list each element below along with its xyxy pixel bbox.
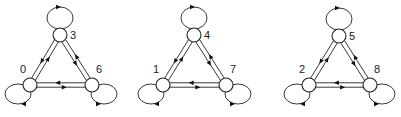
edge-1-to-4 [169,42,193,80]
edge-8-to-5 [345,41,369,78]
arrow-7-to-1-icon [189,81,194,85]
self-loop-5 [326,8,352,30]
state-label-7: 7 [230,63,236,75]
arrow-0-to-6-icon [62,85,67,89]
self-loop-arrow-5-icon [335,6,340,10]
self-loop-3 [47,7,73,29]
edge-4-to-7 [196,42,220,80]
state-node-0 [23,78,37,92]
arrow-8-to-5-icon [354,55,359,60]
state-label-8: 8 [374,63,380,75]
state-label-0: 0 [20,63,26,75]
graph-component-B: 417 [138,5,251,106]
arrow-0-to-3-icon [45,57,49,62]
graph-component-A: 306 [5,5,117,106]
arrow-2-to-5-icon [324,57,328,62]
edge-2-to-5 [315,43,338,80]
self-loop-arrow-2-icon [300,102,305,106]
state-node-1 [156,78,170,92]
self-loop-arrow-8-icon [374,102,379,106]
arrow-2-to-8-icon [340,85,345,89]
edge-3-to-6 [62,42,86,80]
state-label-2: 2 [299,63,305,75]
state-label-3: 3 [70,29,76,41]
edge-7-to-4 [200,40,224,78]
state-node-6 [85,78,99,92]
state-node-5 [332,29,346,43]
arrow-5-to-2-icon [319,58,323,63]
self-loop-arrow-1-icon [154,102,159,106]
arrow-4-to-7-icon [207,60,212,65]
edge-6-to-3 [66,40,90,78]
state-diagram: 306417528 [0,0,401,117]
state-label-6: 6 [96,63,102,75]
edge-4-to-1 [165,40,189,78]
state-node-8 [363,78,377,92]
graph-component-C: 528 [284,6,395,106]
arrow-6-to-0-icon [55,81,60,85]
arrow-1-to-4-icon [179,57,184,62]
edge-3-to-0 [32,40,55,78]
arrow-3-to-6-icon [73,60,78,65]
state-node-2 [302,78,316,92]
arrow-7-to-4-icon [209,54,214,59]
state-node-3 [53,28,67,42]
state-node-7 [219,78,233,92]
self-loop-arrow-6-icon [96,102,101,106]
arrow-6-to-3-icon [75,54,80,59]
arrow-1-to-7-icon [195,85,200,89]
state-node-4 [187,28,201,42]
state-label-5: 5 [349,30,355,42]
edge-5-to-2 [311,41,334,78]
state-label-4: 4 [204,29,210,41]
self-loop-arrow-3-icon [56,5,61,9]
self-loop-arrow-7-icon [230,102,235,106]
state-label-1: 1 [153,63,159,75]
arrow-5-to-8-icon [351,61,356,66]
self-loop-arrow-4-icon [190,5,195,9]
edge-5-to-8 [341,43,365,80]
arrow-8-to-2-icon [334,81,339,85]
self-loop-4 [181,7,207,29]
arrow-3-to-0-icon [40,58,44,63]
edge-0-to-3 [35,42,58,80]
self-loop-arrow-0-icon [21,102,26,106]
arrow-4-to-1-icon [174,58,179,63]
